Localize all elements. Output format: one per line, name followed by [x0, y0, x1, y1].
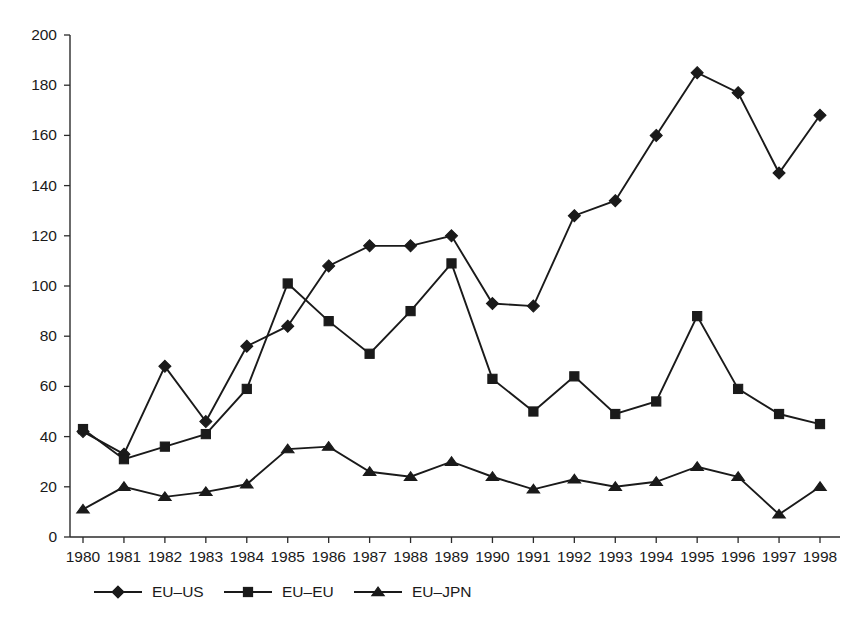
y-tick-label-0: 0 — [48, 528, 57, 545]
data-point — [529, 407, 538, 416]
x-tick-label-1994: 1994 — [639, 548, 674, 565]
legend-label: EU–EU — [282, 583, 334, 600]
data-point — [324, 317, 333, 326]
data-point — [570, 372, 579, 381]
data-point — [242, 384, 251, 393]
y-tick-label-80: 80 — [40, 327, 58, 344]
x-tick-label-1997: 1997 — [762, 548, 796, 565]
chart-figure: 020406080100120140160180200 198019811982… — [0, 0, 862, 624]
data-point — [283, 279, 292, 288]
y-tick-label-160: 160 — [31, 126, 57, 143]
x-tick-label-1985: 1985 — [270, 548, 304, 565]
x-tick-label-1995: 1995 — [680, 548, 714, 565]
y-tick-label-180: 180 — [31, 76, 57, 93]
x-tick-label-1980: 1980 — [66, 548, 101, 565]
data-point — [78, 424, 87, 433]
y-tick-label-200: 200 — [31, 26, 57, 43]
x-tick-label-1996: 1996 — [721, 548, 755, 565]
y-tick-label-60: 60 — [40, 377, 58, 394]
data-point — [815, 419, 824, 428]
data-point — [774, 409, 783, 418]
data-point — [693, 312, 702, 321]
legend-label: EU–JPN — [412, 583, 471, 600]
x-tick-label-1988: 1988 — [393, 548, 427, 565]
legend-label: EU–US — [152, 583, 204, 600]
data-point — [488, 374, 497, 383]
data-point — [201, 430, 210, 439]
x-tick-label-1984: 1984 — [230, 548, 265, 565]
data-point — [365, 349, 374, 358]
line-chart: 020406080100120140160180200 198019811982… — [0, 0, 862, 624]
x-tick-label-1981: 1981 — [107, 548, 141, 565]
y-tick-label-40: 40 — [40, 428, 58, 445]
x-tick-label-1989: 1989 — [434, 548, 468, 565]
x-tick-label-1987: 1987 — [352, 548, 386, 565]
y-tick-label-120: 120 — [31, 227, 57, 244]
data-point — [447, 259, 456, 268]
data-point — [611, 409, 620, 418]
legend-marker-square-icon — [243, 587, 252, 596]
data-point — [160, 442, 169, 451]
data-point — [652, 397, 661, 406]
x-tick-label-1986: 1986 — [311, 548, 345, 565]
x-tick-label-1982: 1982 — [148, 548, 182, 565]
x-tick-label-1990: 1990 — [475, 548, 510, 565]
data-point — [406, 307, 415, 316]
y-tick-label-100: 100 — [31, 277, 57, 294]
x-tick-label-1991: 1991 — [516, 548, 550, 565]
caption-strip — [0, 602, 862, 624]
x-tick-label-1993: 1993 — [598, 548, 632, 565]
data-point — [734, 384, 743, 393]
x-tick-label-1998: 1998 — [803, 548, 837, 565]
x-tick-label-1983: 1983 — [189, 548, 223, 565]
y-tick-label-140: 140 — [31, 177, 57, 194]
x-tick-label-1992: 1992 — [557, 548, 591, 565]
data-point — [119, 455, 128, 464]
y-tick-label-20: 20 — [40, 478, 58, 495]
